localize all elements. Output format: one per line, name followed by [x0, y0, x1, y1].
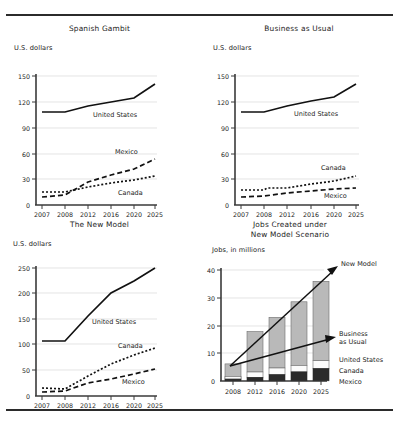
- chart-panel-jobs-created: Jobs Created under New Model Scenario Jo…: [199, 214, 399, 410]
- chart-panel-the-new-model: The New Model U.S. dollars 250 200 150 1…: [0, 214, 199, 410]
- annotation-label-business-as-usual-line1: Business: [339, 330, 368, 338]
- chart-panel-business-as-usual: Business as Usual U.S. dollars 150 120 9…: [199, 18, 399, 214]
- y-tick-label: 120: [18, 99, 30, 106]
- annotation-label-new-model: New Model: [341, 260, 377, 268]
- series-label-united-states: United States: [93, 111, 138, 119]
- x-tick-label: 2007: [34, 402, 50, 409]
- x-tick-label: 2020: [291, 388, 307, 395]
- stacked-bar-2025: [313, 281, 329, 381]
- y-tick-label: 150: [217, 73, 229, 80]
- y-tick-label: 90: [22, 125, 30, 132]
- y-tick-label: 90: [221, 125, 229, 132]
- y-tick-label: 0: [26, 202, 30, 209]
- y-tick-label: 0: [211, 378, 215, 385]
- legend-label-united-states: United States: [339, 356, 384, 364]
- y-tick-label: 50: [22, 367, 30, 374]
- chart-svg-spanish-gambit: 150 120 90 60 30 0 2007 2008 2012 2016 2…: [0, 18, 199, 214]
- y-tick-label: 20: [207, 323, 215, 330]
- series-line-canada: [241, 176, 356, 190]
- x-tick-label: 2025: [147, 402, 163, 409]
- chart-svg-jobs-created: 40 30 20 10 0: [199, 214, 399, 410]
- x-tick-label: 2012: [80, 402, 96, 409]
- y-tick-label: 10: [207, 350, 215, 357]
- series-label-canada: Canada: [118, 342, 143, 350]
- x-tick-label: 2016: [269, 388, 285, 395]
- y-tick-label: 60: [221, 151, 229, 158]
- y-tick-label: 250: [18, 265, 30, 272]
- series-label-mexico: Mexico: [122, 378, 145, 386]
- series-label-mexico: Mexico: [324, 192, 347, 200]
- y-tick-label: 30: [207, 295, 215, 302]
- series-label-canada: Canada: [118, 189, 143, 197]
- stacked-bar-2020: [291, 302, 307, 381]
- page-rule-top: [6, 14, 393, 16]
- stacked-bar-2008: [225, 364, 241, 381]
- chart-svg-the-new-model: 250 200 150 100 50 0 2007 2008 2012 2016…: [0, 214, 199, 410]
- y-tick-label: 30: [22, 176, 30, 183]
- y-tick-label: 200: [18, 290, 30, 297]
- y-tick-label: 120: [217, 99, 229, 106]
- chart-grid: Spanish Gambit U.S. dollars 150 1: [0, 18, 399, 410]
- x-tick-label: 2020: [126, 402, 142, 409]
- y-tick-label: 60: [22, 151, 30, 158]
- y-tick-label: 100: [18, 341, 30, 348]
- x-tick-label: 2012: [247, 388, 263, 395]
- series-line-united-states: [42, 84, 155, 112]
- x-tick-label: 2008: [225, 388, 241, 395]
- series-label-mexico: Mexico: [115, 148, 138, 156]
- y-tick-label: 40: [207, 267, 215, 274]
- y-tick-label: 0: [225, 202, 229, 209]
- series-label-united-states: United States: [294, 110, 339, 118]
- x-tick-label: 2016: [103, 402, 119, 409]
- y-tick-label: 150: [18, 316, 30, 323]
- y-tick-label: 30: [221, 176, 229, 183]
- legend-label-mexico: Mexico: [339, 378, 362, 386]
- chart-svg-business-as-usual: 150 120 90 60 30 0 2007 2008 2012 2016 2…: [199, 18, 399, 214]
- x-tick-label: 2025: [313, 388, 329, 395]
- chart-panel-spanish-gambit: Spanish Gambit U.S. dollars 150 1: [0, 18, 199, 214]
- y-tick-label: 0: [26, 393, 30, 400]
- x-tick-label: 2008: [57, 402, 73, 409]
- series-label-canada: Canada: [321, 164, 346, 172]
- series-line-united-states: [241, 84, 356, 112]
- series-line-united-states: [42, 268, 155, 341]
- y-tick-label: 150: [18, 73, 30, 80]
- annotation-label-business-as-usual-line2: as Usual: [339, 338, 367, 346]
- legend-label-canada: Canada: [339, 367, 364, 375]
- series-label-united-states: United States: [92, 318, 137, 326]
- stacked-bar-2012: [247, 332, 263, 381]
